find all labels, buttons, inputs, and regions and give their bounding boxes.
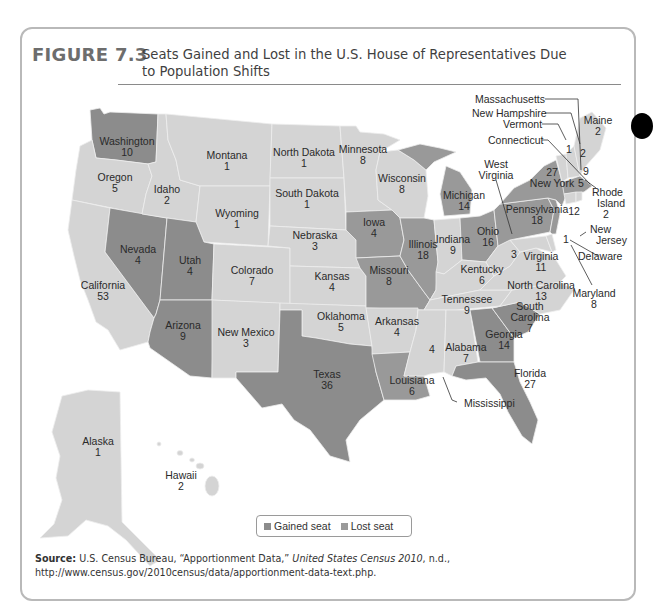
gained-swatch-icon (264, 523, 271, 530)
label-massachusetts-seats: 9 (583, 165, 589, 177)
state-alaska (40, 390, 160, 566)
label-westvirginia-seats: 3 (511, 248, 517, 260)
state-hawaii-island-3 (190, 458, 195, 462)
legend-item-gained: Gained seat (264, 520, 331, 532)
state-hawaii-island-4 (196, 463, 204, 469)
label-delaware: Delaware (578, 250, 623, 262)
label-newyork: New York (530, 177, 575, 189)
legend-gained-label: Gained seat (274, 520, 331, 532)
label-connecticut-seats: 5 (578, 177, 584, 189)
label-hawaii: Hawaii2 (165, 469, 197, 492)
state-hawaii-island-2 (177, 451, 183, 456)
label-delaware-seats: 1 (563, 233, 569, 245)
legend-item-lost: Lost seat (341, 520, 394, 532)
leader-newjersey (580, 232, 586, 236)
label-newjersey-seats: 12 (568, 205, 580, 217)
leader-newhampshire (545, 113, 580, 144)
leader-vermont (542, 124, 566, 140)
label-newhampshire-seats: 2 (580, 147, 586, 159)
state-rhodeisland (576, 192, 582, 202)
source-text-before: U.S. Census Bureau, “Apportionment Data,… (76, 553, 292, 564)
label-vermont: Vermont (503, 118, 542, 130)
page-bullet-marker (631, 113, 653, 139)
legend-lost-label: Lost seat (351, 520, 394, 532)
label-rhodeisland: RhodeIsland2 (592, 186, 625, 220)
source-italic: United States Census 2010 (292, 553, 422, 564)
state-hawaii-island-1 (157, 442, 161, 446)
source-note: Source: U.S. Census Bureau, “Apportionme… (35, 552, 625, 580)
label-mississippi: Mississippi (464, 397, 515, 409)
state-hawaii-island-5 (205, 476, 219, 496)
source-label: Source: (35, 553, 76, 564)
label-vermont-seats: 1 (566, 143, 572, 155)
lost-swatch-icon (341, 523, 348, 530)
label-newhampshire: New Hampshire (472, 107, 547, 119)
label-connecticut: Connecticut (488, 134, 544, 146)
label-westvirginia: WestVirginia (479, 158, 514, 181)
leader-mississippi (443, 377, 457, 402)
label-mississippi-seats: 4 (429, 343, 435, 355)
label-maryland: Maryland8 (572, 287, 615, 310)
map-legend: Gained seat Lost seat (256, 515, 412, 537)
label-newjersey: NewJersey (590, 223, 628, 246)
label-massachusetts: Massachusetts (475, 93, 545, 105)
